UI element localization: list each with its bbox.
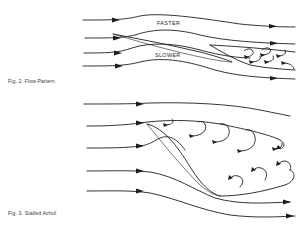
fig3-caption: Fig. 3. Stalled Airfoil: [8, 210, 56, 216]
diagram-canvas: FASTER SLOWER: [0, 0, 305, 227]
vortex-arrow-icon: [189, 134, 194, 138]
fig3-stalled-airfoil: [84, 102, 295, 219]
vortex-arrow-icon: [276, 161, 281, 166]
arrow-icon: [112, 18, 120, 23]
fig2-wake-lower-line: [210, 45, 295, 70]
eddy-arrow-icon: [276, 54, 281, 58]
fig3-lower-wake-boundary: [220, 170, 294, 196]
label-slower: SLOWER: [155, 52, 181, 58]
label-faster: FASTER: [157, 20, 180, 26]
vortex-arrow-icon: [163, 123, 168, 127]
vortex-arrow-icon: [272, 147, 277, 151]
vortex-arrow-icon: [212, 140, 217, 144]
vortex-arrow-icon: [251, 167, 256, 172]
fig3-streamline-1: [84, 102, 290, 117]
arrow-icon: [270, 41, 278, 46]
vortex-arrow-icon: [237, 149, 242, 153]
arrow-icon: [136, 189, 144, 194]
arrow-icon: [269, 24, 277, 29]
fig2-streamline-4: [83, 60, 295, 81]
fig2-flow-pattern: FASTER SLOWER: [83, 15, 295, 81]
fig3-streamline-5: [87, 189, 295, 219]
eddy-arrow-icon: [260, 53, 265, 57]
page: FASTER SLOWER: [0, 0, 305, 227]
fig2-streamline-2: [85, 30, 295, 46]
vortex-arrow-icon: [228, 175, 233, 180]
fig3-airfoil: [147, 124, 220, 196]
arrow-icon: [136, 144, 144, 149]
fig3-lower-vortices: [228, 161, 291, 187]
arrow-icon: [136, 121, 144, 126]
arrow-icon: [136, 169, 144, 174]
fig2-caption: Fig. 2. Flow Pattern: [8, 78, 55, 84]
eddy-arrow-icon: [249, 60, 254, 64]
arrow-icon: [286, 214, 294, 219]
arrow-icon: [270, 76, 278, 81]
eddy-arrow-icon: [264, 60, 269, 64]
fig2-streamline-1: [83, 15, 295, 29]
eddy-arrow-icon: [281, 61, 286, 65]
arrow-icon: [136, 102, 144, 107]
arrow-icon: [115, 64, 123, 69]
fig3-upper-vortices: [163, 119, 282, 153]
arrow-icon: [283, 200, 291, 205]
